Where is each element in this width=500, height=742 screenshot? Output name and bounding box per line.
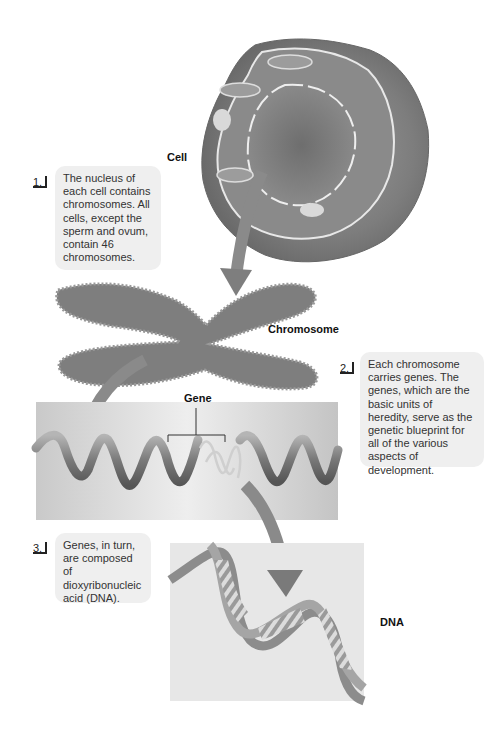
step-callout-1: The nucleus of each cell contains chromo…	[55, 166, 161, 270]
step-number-1: 1.	[33, 176, 47, 188]
step-callout-3: Genes, in turn, are composed of dioxyrib…	[55, 533, 151, 603]
dna-panel	[170, 543, 364, 701]
chromosome-label: Chromosome	[268, 323, 339, 335]
chromosome-illustration	[57, 284, 317, 389]
step-number-3: 3.	[33, 542, 47, 554]
arrow-down-icon	[220, 268, 252, 296]
dna-label: DNA	[380, 616, 404, 628]
step-number-2: 2.	[340, 362, 354, 374]
step-callout-2: Each chromosome carries genes. The genes…	[360, 352, 484, 467]
gene-label: Gene	[184, 392, 212, 404]
cell-illustration	[202, 39, 429, 262]
cell-label: Cell	[167, 151, 187, 163]
